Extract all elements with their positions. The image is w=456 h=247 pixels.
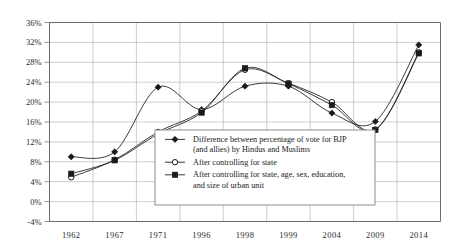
x-axis-tick-label: 1998 [236, 230, 255, 240]
y-axis-tick-label: 8% [30, 157, 41, 167]
y-axis-tick-label: 12% [26, 137, 42, 147]
x-axis-tick-label: 1999 [279, 230, 298, 240]
legend-label-2-1: and size of urban unit [193, 181, 265, 190]
legend-label-2-0: After controlling for state, age, sex, e… [193, 170, 345, 179]
x-axis-tick-label: 2004 [323, 230, 342, 240]
legend-label-0-1: (and allies) by Hindus and Muslims [193, 145, 310, 154]
y-axis-tick-label: 4% [30, 177, 41, 187]
chart-legend: Difference between percentage of vote fo… [155, 130, 375, 205]
y-axis-tick-label: -4% [27, 217, 41, 227]
legend-label-1-0: After controlling for state [193, 158, 277, 167]
data-point-square-2-4 [242, 66, 247, 71]
data-point-square-2-1 [112, 158, 117, 163]
data-point-square-2-5 [286, 81, 291, 86]
data-point-square-legend-2 [172, 172, 177, 177]
y-axis-tick-label: 24% [26, 77, 42, 87]
data-point-square-2-3 [199, 110, 204, 115]
chart-background [0, 0, 456, 247]
x-axis-tick-label: 1971 [149, 230, 168, 240]
data-point-circle-legend-1 [172, 160, 177, 165]
y-axis-tick-label: 20% [26, 97, 42, 107]
x-axis-tick-label: 2014 [409, 230, 428, 240]
x-axis-tick-label: 1962 [62, 230, 81, 240]
data-point-square-2-8 [416, 51, 421, 56]
y-axis-tick-label: 16% [26, 117, 42, 127]
data-point-square-2-0 [69, 171, 74, 176]
legend-label-0-0: Difference between percentage of vote fo… [193, 135, 347, 144]
x-axis-tick-label: 1967 [105, 230, 124, 240]
chart-container: 36%32%28%24%20%16%12%8%4%0%-4% 196219671… [0, 0, 456, 247]
y-axis-tick-label: 28% [26, 57, 42, 67]
data-point-square-2-6 [329, 102, 334, 107]
x-axis-labels: 196219671971199619981999200420092014 [62, 230, 429, 240]
y-axis-tick-label: 0% [30, 197, 41, 207]
x-axis-tick-label: 2009 [366, 230, 385, 240]
x-axis-tick-label: 1996 [192, 230, 211, 240]
y-axis-tick-label: 36% [26, 18, 42, 28]
y-axis-tick-label: 32% [26, 37, 42, 47]
line-chart: 36%32%28%24%20%16%12%8%4%0%-4% 196219671… [0, 0, 456, 247]
